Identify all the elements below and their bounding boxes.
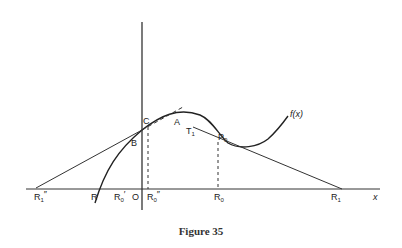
tangent-line-p0 — [193, 127, 342, 189]
label-x-axis: x — [372, 192, 378, 202]
figure-caption: Figure 35 — [0, 225, 402, 237]
label-r0-prime: R0′ — [114, 189, 126, 203]
label-r0-double-prime: R0″ — [147, 189, 161, 203]
label-r: R — [91, 192, 98, 202]
diagram-canvas: C A B T1 P0 f(x) R1″ R R0′ O R0″ R0 R1 x — [0, 0, 402, 248]
label-r0: R0 — [214, 192, 225, 203]
tangent-line-b — [36, 130, 142, 188]
label-o: O — [132, 192, 139, 202]
label-r1: R1 — [331, 192, 342, 203]
label-r1-double-prime: R1″ — [34, 189, 48, 203]
label-b: B — [131, 138, 137, 148]
label-fx: f(x) — [290, 109, 303, 119]
label-a: A — [174, 117, 180, 127]
label-p0: P0 — [218, 132, 228, 143]
label-c: C — [143, 116, 150, 126]
